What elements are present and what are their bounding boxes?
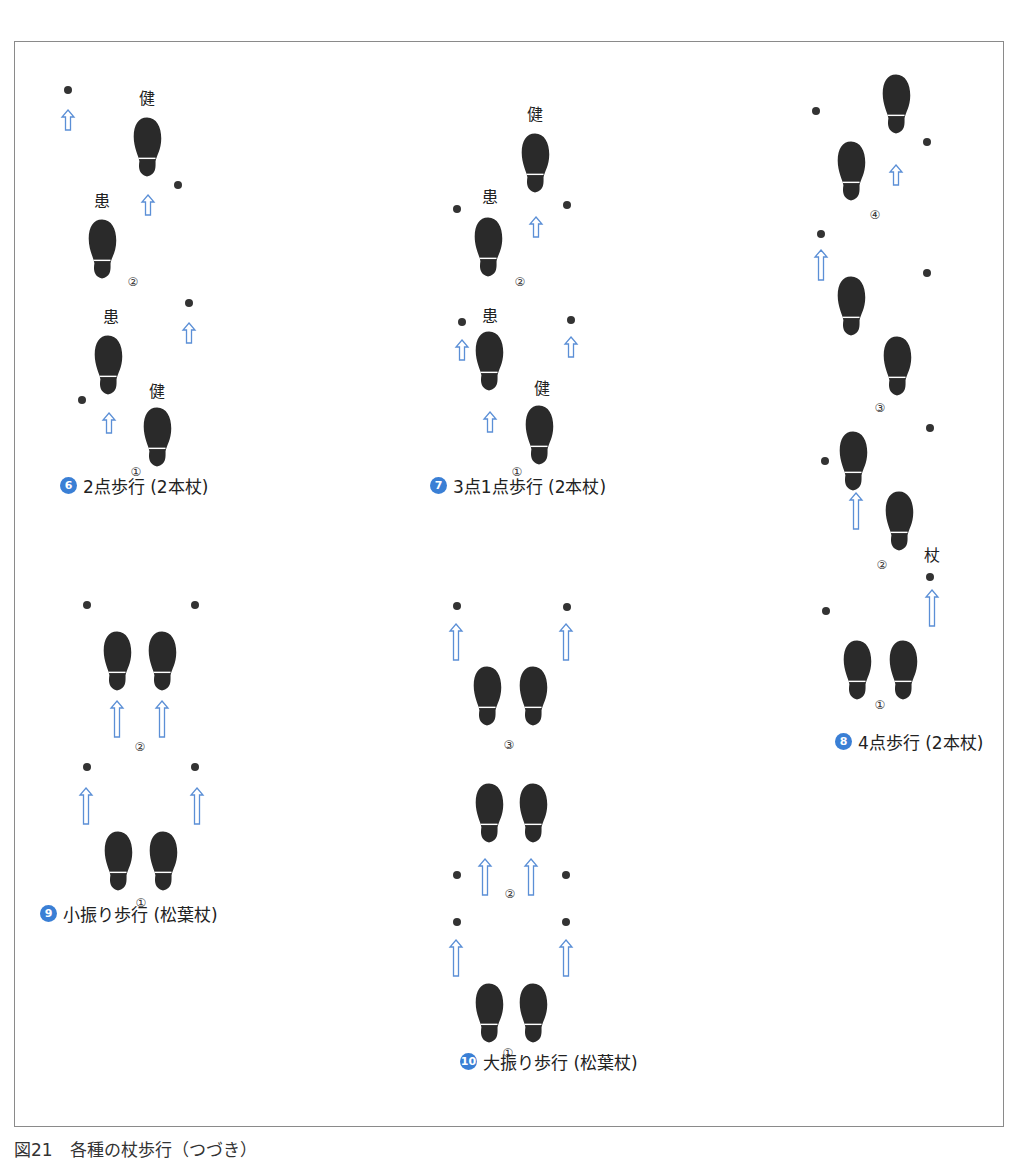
panel-7: 健患患健②① bbox=[453, 105, 577, 479]
step-number: ② bbox=[128, 275, 139, 289]
cane-point-icon bbox=[562, 871, 570, 879]
footprint-icon bbox=[844, 641, 872, 700]
up-arrow-icon bbox=[850, 493, 862, 529]
footprint-icon bbox=[475, 218, 503, 277]
figure-caption: 図21 各種の杖歩行（つづき） bbox=[14, 1136, 257, 1161]
up-arrow-icon bbox=[484, 412, 496, 432]
foot-label: 健 bbox=[527, 105, 543, 124]
footprint-icon bbox=[526, 406, 554, 465]
panel-number-badge: 10 bbox=[460, 1053, 477, 1070]
cane-point-icon bbox=[191, 601, 199, 609]
footprint-icon bbox=[474, 667, 502, 726]
cane-point-icon bbox=[453, 871, 461, 879]
up-arrow-icon bbox=[890, 165, 902, 185]
footprint-icon bbox=[134, 118, 162, 177]
foot-label: 患 bbox=[103, 308, 119, 327]
up-arrow-icon bbox=[111, 701, 123, 737]
step-number: ② bbox=[877, 558, 888, 572]
step-number: ① bbox=[875, 698, 886, 712]
up-arrow-icon bbox=[479, 859, 491, 895]
foot-label: 健 bbox=[149, 382, 165, 401]
cane-point-icon bbox=[174, 181, 182, 189]
footprint-icon bbox=[95, 336, 123, 395]
up-arrow-icon bbox=[530, 217, 542, 237]
foot-label: 杖 bbox=[924, 546, 940, 565]
cane-point-icon bbox=[78, 396, 86, 404]
panel-title: 3点1点歩行 (2本杖) bbox=[453, 473, 606, 498]
panel-title: 4点歩行 (2本杖) bbox=[858, 729, 983, 754]
cane-point-icon bbox=[926, 573, 934, 581]
panel-number-badge: 7 bbox=[430, 477, 447, 494]
footprint-icon bbox=[476, 984, 504, 1043]
up-arrow-icon bbox=[565, 337, 577, 357]
up-arrow-icon bbox=[926, 590, 938, 626]
step-number: ② bbox=[505, 887, 516, 901]
cane-point-icon bbox=[563, 201, 571, 209]
step-number: ④ bbox=[870, 208, 881, 222]
panel-number-badge: 9 bbox=[40, 905, 57, 922]
up-arrow-icon bbox=[450, 940, 462, 976]
panel-title: 大振り歩行 (松葉杖) bbox=[483, 1049, 638, 1074]
panel-8: 杖④③②① bbox=[812, 75, 940, 712]
footprint-icon bbox=[522, 134, 550, 193]
cane-point-icon bbox=[923, 269, 931, 277]
up-arrow-icon bbox=[183, 323, 195, 343]
up-arrow-icon bbox=[62, 110, 74, 130]
cane-point-icon bbox=[458, 318, 466, 326]
panel-caption-8: 84点歩行 (2本杖) bbox=[835, 729, 983, 754]
cane-point-icon bbox=[923, 138, 931, 146]
footprint-icon bbox=[883, 75, 911, 134]
cane-point-icon bbox=[812, 107, 820, 115]
footprint-icon bbox=[476, 332, 504, 391]
up-arrow-icon bbox=[103, 413, 115, 433]
step-number: ③ bbox=[504, 738, 515, 752]
footprint-icon bbox=[476, 784, 504, 843]
up-arrow-icon bbox=[560, 624, 572, 660]
up-arrow-icon bbox=[156, 701, 168, 737]
up-arrow-icon bbox=[450, 624, 462, 660]
cane-point-icon bbox=[821, 457, 829, 465]
footprint-icon bbox=[520, 667, 548, 726]
cane-point-icon bbox=[453, 602, 461, 610]
panel-caption-6: 62点歩行 (2本杖) bbox=[60, 473, 208, 498]
footprint-icon bbox=[838, 277, 866, 336]
footprint-icon bbox=[105, 832, 133, 891]
up-arrow-icon bbox=[142, 195, 154, 215]
cane-point-icon bbox=[64, 86, 72, 94]
step-number: ③ bbox=[875, 401, 886, 415]
footprint-icon bbox=[520, 984, 548, 1043]
foot-label: 患 bbox=[482, 307, 498, 326]
footprint-icon bbox=[520, 784, 548, 843]
panel-caption-10: 10大振り歩行 (松葉杖) bbox=[460, 1049, 638, 1074]
cane-point-icon bbox=[185, 299, 193, 307]
cane-point-icon bbox=[563, 603, 571, 611]
foot-label: 健 bbox=[139, 89, 155, 108]
cane-point-icon bbox=[822, 607, 830, 615]
up-arrow-icon bbox=[191, 788, 203, 824]
foot-label: 患 bbox=[482, 188, 498, 207]
footprint-icon bbox=[838, 142, 866, 201]
foot-label: 健 bbox=[534, 379, 550, 398]
footprint-icon bbox=[104, 632, 132, 691]
footprint-icon bbox=[884, 337, 912, 396]
panel-title: 小振り歩行 (松葉杖) bbox=[63, 901, 218, 926]
panel-caption-9: 9小振り歩行 (松葉杖) bbox=[40, 901, 218, 926]
footprint-icon bbox=[840, 432, 868, 491]
cane-point-icon bbox=[926, 424, 934, 432]
panel-10: ③②① bbox=[450, 602, 572, 1060]
up-arrow-icon bbox=[525, 859, 537, 895]
panel-number-badge: 6 bbox=[60, 477, 77, 494]
cane-point-icon bbox=[191, 763, 199, 771]
cane-point-icon bbox=[83, 601, 91, 609]
up-arrow-icon bbox=[815, 250, 827, 280]
footprint-icon bbox=[89, 220, 117, 279]
foot-label: 患 bbox=[94, 192, 110, 211]
cane-point-icon bbox=[817, 230, 825, 238]
up-arrow-icon bbox=[80, 788, 92, 824]
up-arrow-icon bbox=[560, 940, 572, 976]
cane-point-icon bbox=[453, 205, 461, 213]
panel-9: ②① bbox=[80, 601, 203, 910]
panel-title: 2点歩行 (2本杖) bbox=[83, 473, 208, 498]
up-arrow-icon bbox=[456, 340, 468, 360]
